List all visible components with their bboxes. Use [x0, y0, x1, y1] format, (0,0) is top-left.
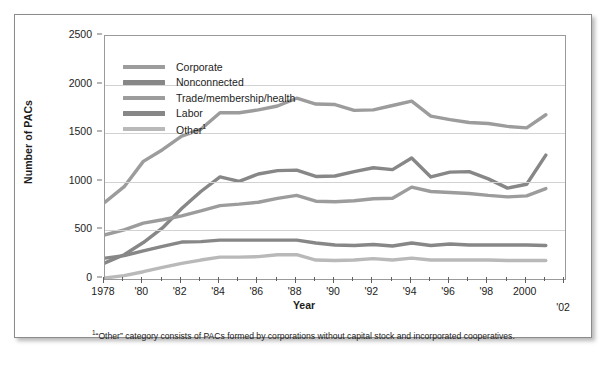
legend-label-other: Other1: [176, 123, 206, 135]
chart-page: Corporate Nonconnected Trade/membership/…: [0, 0, 608, 368]
series-line-other: [105, 255, 546, 278]
legend-item-other: Other1: [123, 121, 295, 137]
legend-swatch-nonconnected: [123, 80, 165, 85]
legend-swatch-trade: [123, 96, 165, 101]
chart-panel: Corporate Nonconnected Trade/membership/…: [14, 14, 592, 338]
legend-item-labor: Labor: [123, 106, 295, 122]
x-axis-title: Year: [0, 299, 608, 311]
legend-item-trade: Trade/membership/health: [123, 90, 295, 106]
legend-swatch-other: [123, 127, 165, 132]
series-line-trade-membership-health: [105, 187, 546, 235]
legend-label-corporate: Corporate: [176, 62, 223, 73]
footnote: 1“Other” category consists of PACs forme…: [92, 329, 515, 341]
y-axis-title: Number of PACs: [22, 100, 38, 184]
series-line-nonconnected: [105, 155, 546, 263]
legend-label-labor: Labor: [176, 108, 203, 119]
legend: Corporate Nonconnected Trade/membership/…: [123, 59, 295, 137]
gridline-1000: [105, 182, 565, 183]
legend-label-nonconnected: Nonconnected: [176, 77, 244, 88]
legend-item-corporate: Corporate: [123, 59, 295, 75]
series-line-labor: [105, 240, 546, 258]
legend-swatch-corporate: [123, 65, 165, 70]
legend-swatch-labor: [123, 111, 165, 116]
legend-label-trade: Trade/membership/health: [176, 93, 295, 104]
gridline-500: [105, 230, 565, 231]
legend-item-nonconnected: Nonconnected: [123, 75, 295, 91]
footnote-text: “Other” category consists of PACs formed…: [96, 331, 515, 341]
legend-footnote-marker: 1: [202, 123, 206, 130]
